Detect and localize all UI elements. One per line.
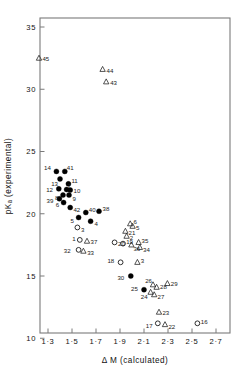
figure-background [0,0,249,379]
point-label: 40 [89,206,96,213]
point-label: 38 [103,205,110,212]
y-tick-label: 30 [26,85,36,94]
point-label: 34 [143,246,150,253]
x-tick-label: 1·9 [114,337,127,346]
x-tick-label: 2·7 [210,337,223,346]
marker-open-circle [155,321,160,326]
point-label: 18 [107,257,114,264]
point-label: 12 [46,186,53,193]
point-label: 44 [107,67,114,74]
x-axis-title: Δ M (calculated) [102,356,169,365]
y-tick-label: 25 [26,147,36,156]
point-label: 37 [91,238,98,245]
point-label: 23 [162,309,169,316]
point-label: 11 [71,177,78,184]
marker-filled-circle [61,200,66,205]
point-label: 41 [67,164,74,171]
x-tick-label: 1·7 [90,337,103,346]
point-label: 26 [145,277,152,284]
marker-filled-circle [56,186,61,191]
y-axis-title: pKₐ (experimental) [4,138,13,215]
point-label: 22 [168,323,175,330]
x-tick-label: 1·5 [66,337,79,346]
point-label: 43 [110,79,117,86]
point-label: 29 [171,280,178,287]
point-label: 28 [160,283,167,290]
point-label: 14 [44,164,51,171]
marker-filled-circle [68,205,73,210]
point-label: 3 [141,257,145,264]
marker-filled-circle [54,169,59,174]
point-label: 36 [133,245,140,252]
point-label: 32 [64,247,71,254]
marker-filled-circle [83,210,88,215]
marker-open-circle [112,240,117,245]
marker-filled-circle [61,193,66,198]
y-tick-label: 20 [26,210,36,219]
y-tick-label: 10 [26,334,36,343]
marker-open-circle [76,247,81,252]
marker-filled-circle [128,274,133,279]
x-tick-label: 2·5 [186,337,199,346]
x-tick-label: 2·1 [138,337,151,346]
marker-filled-circle [58,176,63,181]
marker-filled-circle [97,209,102,214]
marker-filled-circle [142,287,147,292]
marker-open-circle [75,225,80,230]
marker-filled-circle [88,219,93,224]
point-label: 2 [130,234,134,241]
point-label: 42 [73,206,80,213]
point-label: 27 [158,293,165,300]
point-label: 33 [87,249,94,256]
point-label: 16 [201,318,208,325]
plot-canvas: 1·31·51·71·92·12·32·52·7 101520253035 14… [0,0,249,379]
marker-filled-circle [67,193,72,198]
scatter-plot-figure: 1·31·51·71·92·12·32·52·7 101520253035 14… [0,0,249,379]
point-label: 20 [118,240,125,247]
point-label: 35 [142,237,149,244]
point-label: 5 [70,217,74,224]
y-tick-label: 15 [26,272,36,281]
marker-filled-circle [76,215,81,220]
point-label: 30 [117,274,124,281]
marker-open-circle [118,260,123,265]
marker-open-circle [195,321,200,326]
point-label: 24 [141,293,148,300]
point-label: 45 [42,55,49,62]
x-tick-label: 1·3 [42,337,55,346]
point-label: 17 [146,322,153,329]
marker-open-circle [77,237,82,242]
y-tick-label: 35 [26,23,36,32]
point-label: 10 [74,187,81,194]
point-label: 39 [47,197,54,204]
point-label: 25 [131,285,138,292]
x-tick-label: 2·3 [162,337,175,346]
